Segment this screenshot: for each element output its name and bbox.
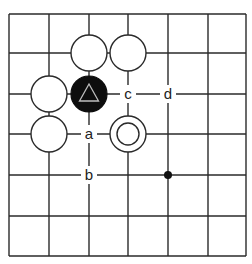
point-label-b: b — [81, 166, 97, 184]
white-stone — [31, 76, 67, 112]
white-stone — [110, 116, 146, 152]
point-label-a: a — [81, 125, 97, 143]
white-stone — [110, 35, 146, 71]
svg-text:b: b — [85, 166, 93, 183]
svg-text:d: d — [164, 85, 172, 102]
white-stone — [31, 116, 67, 152]
point-label-c: c — [120, 85, 136, 103]
svg-text:a: a — [85, 125, 94, 142]
svg-text:c: c — [124, 85, 132, 102]
star-points — [164, 171, 172, 179]
point-label-d: d — [160, 85, 176, 103]
hoshi-dot — [164, 171, 172, 179]
black-stone — [71, 76, 107, 112]
go-board: cdab — [0, 0, 252, 264]
white-stone — [71, 35, 107, 71]
